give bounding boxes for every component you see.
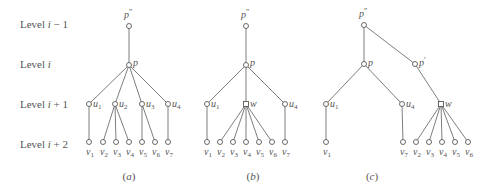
node-v6 [270, 140, 275, 145]
node-v4 [244, 140, 249, 145]
node-p [244, 63, 249, 68]
tree-diagram-canvas: Level i − 1Level iLevel i + 1Level i + 2… [0, 0, 490, 193]
node-v2 [218, 140, 223, 145]
edge-u2-v3 [115, 104, 116, 142]
edge-w-v6 [441, 104, 468, 142]
edge-u2-v2 [103, 104, 115, 142]
node-label-u1: u1 [330, 98, 339, 111]
trees: p″pu1u2u3u4v1v2v3v4v5v6v7p″pu1wu4v1v2v3v… [86, 7, 473, 159]
node-label-v2: v2 [100, 146, 108, 159]
node-v3 [231, 140, 236, 145]
caption-c: (c) [366, 170, 379, 183]
node-p [362, 62, 367, 67]
caption-a: (a) [123, 170, 136, 183]
edge-pp-w [415, 64, 441, 104]
edge-p-u4 [364, 64, 402, 104]
node-v2 [101, 140, 106, 145]
edge-w-v6 [246, 104, 272, 142]
level-label: Level i − 1 [20, 18, 68, 30]
caption-b: (b) [247, 170, 260, 183]
level-labels: Level i − 1Level iLevel i + 1Level i + 2 [20, 18, 68, 150]
node-label-pp: p′ [418, 56, 426, 68]
node-label-v4: v4 [126, 146, 134, 159]
tree-c: p″pp′u1u4wv1v7v2v3v4v5v6 [323, 7, 473, 159]
edge-w-v5 [441, 104, 455, 142]
node-label-u2: u2 [119, 98, 128, 111]
node-label-v5: v5 [256, 146, 264, 159]
node-label-u4: u4 [172, 98, 181, 111]
node-label-v6: v6 [152, 146, 160, 159]
edge-w-v3 [429, 104, 441, 142]
node-v4 [440, 140, 445, 145]
edge-w-v2 [220, 104, 246, 142]
node-v3 [114, 140, 119, 145]
node-label-p: p [367, 57, 373, 68]
node-u3 [140, 102, 145, 107]
node-v5 [453, 140, 458, 145]
node-u4 [283, 102, 288, 107]
node-label-u4: u4 [289, 98, 298, 111]
level-label: Level i + 2 [20, 138, 68, 150]
node-label-v3: v3 [113, 146, 121, 159]
node-u1 [87, 102, 92, 107]
node-label-v7: v7 [282, 146, 290, 159]
node-label-v6: v6 [465, 146, 473, 159]
node-u2 [113, 102, 118, 107]
node-label-w: w [250, 98, 257, 109]
node-v5 [257, 140, 262, 145]
node-label-v4: v4 [439, 146, 447, 159]
node-label-w: w [445, 98, 452, 109]
diagram-figure: Level i − 1Level iLevel i + 1Level i + 2… [0, 0, 490, 193]
edge-w-v5 [246, 104, 259, 142]
edge-u4-v7 [402, 104, 403, 142]
tree-a: p″pu1u2u3u4v1v2v3v4v5v6v7 [86, 8, 181, 159]
node-v5 [140, 140, 145, 145]
edge-p-u3 [129, 65, 142, 104]
edge-w-v2 [416, 104, 441, 142]
captions: (a)(b)(c) [123, 170, 379, 183]
node-v7 [401, 140, 406, 145]
node-p2 [362, 23, 367, 28]
node-label-p: p [249, 57, 255, 68]
node-u1 [205, 102, 210, 107]
node-label-v2: v2 [217, 146, 225, 159]
node-v6 [466, 140, 471, 145]
edge-w-v3 [233, 104, 246, 142]
node-label-p2: p″ [123, 8, 132, 20]
node-u4 [400, 102, 405, 107]
node-label-v4: v4 [243, 146, 251, 159]
node-v3 [427, 140, 432, 145]
node-label-v2: v2 [413, 146, 421, 159]
node-label-v1: v1 [86, 146, 94, 159]
node-v7 [283, 140, 288, 145]
node-v6 [153, 140, 158, 145]
node-label-p2: p″ [358, 7, 367, 19]
node-v4 [127, 140, 132, 145]
node-label-v7: v7 [400, 146, 408, 159]
node-u4 [166, 102, 171, 107]
node-v7 [166, 140, 171, 145]
node-label-v1: v1 [323, 146, 331, 159]
node-p2 [127, 24, 132, 29]
node-label-v3: v3 [230, 146, 238, 159]
node-label-v3: v3 [426, 146, 434, 159]
node-label-u3: u3 [146, 98, 155, 111]
node-p [127, 63, 132, 68]
node-v2 [414, 140, 419, 145]
node-u1 [324, 102, 329, 107]
tree-b: p″pu1wu4v1v2v3v4v5v6v7 [204, 8, 298, 159]
node-label-v7: v7 [165, 146, 173, 159]
edge-w-v4 [441, 104, 442, 142]
node-w [439, 102, 444, 107]
node-label-p2: p″ [240, 8, 249, 20]
node-p2 [244, 24, 249, 29]
node-w [244, 102, 249, 107]
node-label-u1: u1 [211, 98, 220, 111]
node-label-v5: v5 [452, 146, 460, 159]
node-v1 [87, 140, 92, 145]
level-label: Level i [20, 58, 51, 70]
node-label-u4: u4 [406, 98, 415, 111]
node-v1 [205, 140, 210, 145]
node-label-v6: v6 [269, 146, 277, 159]
level-label: Level i + 1 [20, 98, 68, 110]
